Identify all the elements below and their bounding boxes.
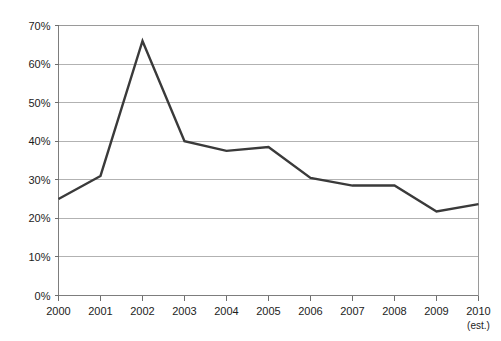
x-tick-label-2010: 2010 <box>466 305 490 317</box>
x-tick-label-2001: 2001 <box>88 305 112 317</box>
x-tick-label-2005: 2005 <box>256 305 280 317</box>
y-tick-label-0: 0% <box>35 290 51 302</box>
x-tick-sublabel-2010: (est.) <box>467 320 490 331</box>
x-tick-label-2003: 2003 <box>172 305 196 317</box>
x-tick-label-2009: 2009 <box>424 305 448 317</box>
y-tick-label-10: 10% <box>28 251 50 263</box>
y-tick-label-40: 40% <box>28 135 50 147</box>
x-axis-tick-labels: 2000200120022003200420052006200720082009… <box>46 305 490 331</box>
data-series-line <box>59 41 479 211</box>
y-tick-label-20: 20% <box>28 212 50 224</box>
x-tick-label-2002: 2002 <box>130 305 154 317</box>
x-tick-label-2004: 2004 <box>214 305 238 317</box>
x-tick-label-2007: 2007 <box>340 305 364 317</box>
x-axis <box>59 296 479 301</box>
gridlines <box>59 26 479 296</box>
y-tick-label-50: 50% <box>28 97 50 109</box>
y-tick-label-30: 30% <box>28 174 50 186</box>
y-tick-label-60: 60% <box>28 58 50 70</box>
y-tick-label-70: 70% <box>28 20 50 32</box>
x-tick-label-2008: 2008 <box>382 305 406 317</box>
x-tick-label-2006: 2006 <box>298 305 322 317</box>
y-axis-tick-labels: 0%10%20%30%40%50%60%70% <box>28 20 50 302</box>
y-axis <box>55 26 59 296</box>
chart-container: 0%10%20%30%40%50%60%70% 2000200120022003… <box>0 0 501 341</box>
series-polyline <box>59 41 479 211</box>
x-tick-label-2000: 2000 <box>46 305 70 317</box>
line-chart: 0%10%20%30%40%50%60%70% 2000200120022003… <box>0 0 501 341</box>
